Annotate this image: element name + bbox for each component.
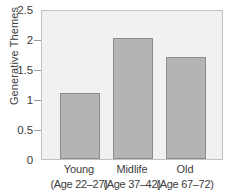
bar-old: [166, 57, 206, 159]
x-category-old: Old (Age 67–72): [138, 162, 232, 192]
y-tick-mark: [34, 130, 41, 131]
x-category-sublabel: (Age 67–72): [138, 177, 232, 192]
bar-young: [60, 93, 100, 159]
y-tick-mark: [34, 100, 41, 101]
bars-layer: [42, 11, 222, 159]
y-tick-label: 1.5: [0, 64, 33, 76]
y-tick-mark: [34, 70, 41, 71]
plot-area: [41, 10, 223, 160]
bar-midlife: [113, 38, 153, 159]
x-axis-tick-labels: Young (Age 22–27) Midlife (Age 37–42) Ol…: [41, 162, 223, 196]
y-tick-label: 2.5: [0, 4, 33, 16]
y-tick-label: 1: [0, 94, 33, 106]
y-tick-mark: [34, 40, 41, 41]
y-tick-label: 2: [0, 34, 33, 46]
bar-chart: Generative Themes 2.5 2 1.5 1 0.5 0 Youn…: [0, 0, 237, 196]
x-category-name: Old: [138, 162, 232, 177]
y-tick-label: 0: [0, 154, 33, 166]
y-tick-label: 0.5: [0, 124, 33, 136]
